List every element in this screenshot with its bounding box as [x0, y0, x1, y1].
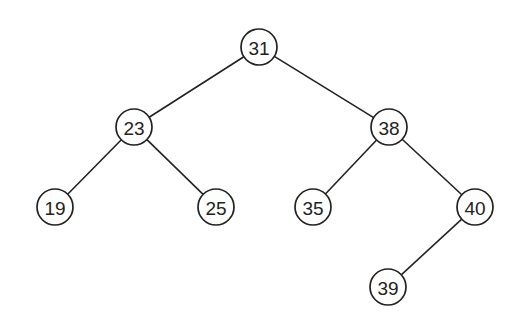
- edge-38-40: [402, 139, 462, 194]
- node-label: 23: [123, 118, 144, 139]
- tree-node-38: 38: [371, 109, 407, 145]
- tree-node-40: 40: [457, 189, 493, 225]
- node-label: 39: [377, 278, 398, 299]
- tree-node-31: 31: [241, 29, 277, 65]
- edge-23-19: [68, 140, 122, 194]
- tree-node-23: 23: [116, 109, 152, 145]
- node-label: 38: [378, 118, 399, 139]
- edge-31-38: [274, 56, 373, 117]
- edge-38-35: [325, 140, 376, 194]
- node-label: 31: [248, 38, 269, 59]
- tree-node-39: 39: [370, 269, 406, 305]
- node-label: 35: [302, 198, 323, 219]
- tree-nodes: 3123381925354039: [37, 29, 493, 305]
- tree-node-25: 25: [198, 189, 234, 225]
- tree-node-19: 19: [37, 189, 73, 225]
- tree-node-35: 35: [295, 189, 331, 225]
- tree-edges: [68, 56, 462, 274]
- edge-40-39: [401, 219, 462, 275]
- node-label: 25: [205, 198, 226, 219]
- node-label: 19: [44, 198, 65, 219]
- tree-diagram: 3123381925354039: [0, 0, 522, 330]
- node-label: 40: [464, 198, 485, 219]
- edge-23-25: [147, 140, 203, 195]
- edge-31-23: [149, 57, 244, 118]
